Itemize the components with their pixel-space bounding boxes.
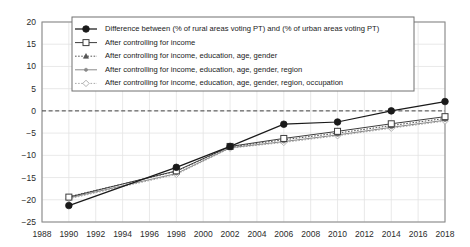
x-axis-tick-label: 1998 [167,229,186,239]
x-axis-tick-label: 2008 [301,229,320,239]
y-axis-tick-label: 20 [27,17,37,27]
legend-label: Difference between (% of rural areas vot… [105,24,380,33]
data-point-small-dot [84,68,87,71]
x-axis-tick-label: 2010 [328,229,347,239]
legend-label: After controlling for income, education,… [105,51,278,60]
legend-label: After controlling for income [105,38,195,47]
data-point-open-square [335,128,341,134]
x-axis-tick-label: 2002 [221,229,240,239]
data-point-open-square [281,135,287,141]
y-axis-tick-label: −15 [22,173,37,183]
data-point-filled-circle [66,202,73,209]
x-axis-tick-label: 1994 [113,229,132,239]
x-axis-tick-label: 2014 [382,229,401,239]
x-axis-tick-label: 2006 [274,229,293,239]
x-axis-tick-label: 1988 [33,229,52,239]
x-axis-tick-label: 2018 [436,229,455,239]
y-axis-tick-label: 15 [27,39,37,49]
data-point-filled-circle [227,143,234,150]
y-axis-tick-label: −20 [22,195,37,205]
chart-legend: Difference between (% of rural areas vot… [72,17,414,91]
data-point-open-square [442,114,448,120]
x-axis-tick-label: 2012 [355,229,374,239]
x-axis-tick-label: 1992 [86,229,105,239]
data-point-filled-circle [281,121,288,128]
data-point-open-square [388,121,394,127]
x-axis-tick-label: 1990 [59,229,78,239]
x-axis-tick-label: 2016 [409,229,428,239]
data-point-open-square [83,40,89,46]
y-axis-tick-label: 10 [27,61,37,71]
legend-item-3[interactable]: After controlling for income, education,… [75,65,302,74]
data-point-open-square [66,194,72,200]
y-axis-tick-label: −5 [26,128,36,138]
x-axis-tick-label: 1996 [140,229,159,239]
y-axis-tick-label: −25 [22,217,37,227]
legend-label: After controlling for income, education,… [105,78,343,87]
x-axis-tick-label: 2000 [194,229,213,239]
data-point-filled-circle [388,108,395,115]
data-point-filled-circle [442,98,449,105]
legend-label: After controlling for income, education,… [105,65,302,74]
y-axis-tick-label: 0 [31,106,36,116]
data-point-filled-circle [173,164,180,171]
legend-item-0[interactable]: Difference between (% of rural areas vot… [75,24,380,33]
legend-item-4[interactable]: After controlling for income, education,… [75,78,343,87]
x-axis-tick-label: 2004 [247,229,266,239]
chart-figure: 20151050−5−10−15−20−25 19881990199219941… [0,0,470,247]
y-axis-tick-label: −10 [22,150,37,160]
line-chart: 20151050−5−10−15−20−25 19881990199219941… [0,0,470,247]
legend-item-2[interactable]: After controlling for income, education,… [75,51,278,60]
y-axis-tick-label: 5 [31,84,36,94]
data-point-filled-circle [334,119,341,126]
data-point-filled-circle [83,26,90,33]
